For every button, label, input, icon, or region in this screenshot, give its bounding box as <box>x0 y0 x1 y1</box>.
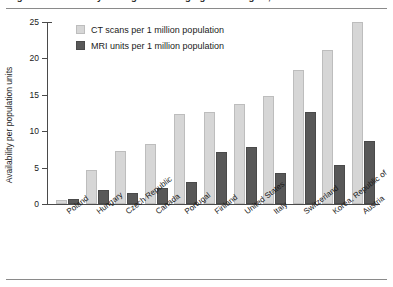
legend-label-ct: CT scans per 1 million population <box>91 25 224 35</box>
bar-ct <box>352 22 363 204</box>
legend-item-ct: CT scans per 1 million population <box>76 23 224 36</box>
y-tick-label: 15 <box>0 90 39 100</box>
bar-mri <box>364 141 375 204</box>
bar-ct <box>293 70 304 204</box>
x-axis-line <box>47 204 380 205</box>
y-tick-mark <box>42 131 47 132</box>
y-tick-mark <box>42 204 47 205</box>
y-tick-label: 5 <box>0 163 39 173</box>
y-tick-label: 25 <box>0 17 39 27</box>
y-tick-mark <box>42 22 47 23</box>
bar-mri <box>305 112 316 204</box>
y-tick-mark <box>42 58 47 59</box>
bar-ct <box>56 200 67 204</box>
chart-figure: Figure 3: Availability of diagnostic ima… <box>0 0 393 287</box>
title-divider <box>6 8 387 9</box>
figure-title: Figure 3: Availability of diagnostic ima… <box>8 0 359 2</box>
y-tick-label: 20 <box>0 53 39 63</box>
chart-legend: CT scans per 1 million population MRI un… <box>76 23 224 55</box>
y-tick-label: 0 <box>0 199 39 209</box>
y-tick-label: 10 <box>0 126 39 136</box>
bottom-divider <box>6 279 387 280</box>
y-axis-label: Availability per population units <box>4 50 14 200</box>
y-axis-line <box>47 22 48 205</box>
y-tick-mark <box>42 168 47 169</box>
y-axis-top-cap <box>47 22 52 23</box>
legend-label-mri: MRI units per 1 million population <box>91 41 224 51</box>
legend-item-mri: MRI units per 1 million population <box>76 39 224 52</box>
y-tick-mark <box>42 95 47 96</box>
bar-ct <box>174 114 185 204</box>
legend-swatch-ct-icon <box>76 25 85 34</box>
bar-ct <box>322 50 333 204</box>
legend-swatch-mri-icon <box>76 41 85 50</box>
bar-mri <box>216 152 227 204</box>
bar-mri <box>246 147 257 204</box>
bar-ct <box>234 104 245 204</box>
